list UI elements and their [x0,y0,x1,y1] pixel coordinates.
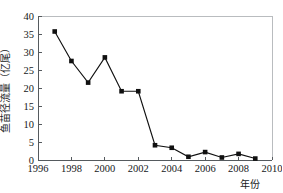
data-point-marker [236,152,241,157]
data-point-marker [169,145,174,150]
data-point-marker [86,80,91,85]
plot-axes [38,16,272,160]
data-series [52,29,257,161]
data-point-marker [203,150,208,155]
data-point-marker [136,89,141,94]
series-line-path [55,31,256,158]
y-tick-label: 15 [24,101,35,112]
y-tick-label: 35 [24,29,35,40]
x-tick-label: 2004 [161,163,183,174]
x-tick-label: 2000 [94,163,115,174]
y-tick-label: 40 [24,11,35,22]
x-tick-label: 2008 [228,163,249,174]
y-axis-title: 鱼苗径流量（亿尾） [0,43,11,133]
x-tick-label: 1998 [61,163,82,174]
x-tick-label: 2006 [195,163,216,174]
data-point-marker [103,55,108,60]
x-tick-label: 1996 [28,163,49,174]
data-point-marker [69,59,74,64]
line-chart: 0510152025303540 19961998200020022004200… [0,0,282,193]
data-point-marker [153,143,158,148]
chart-container: 0510152025303540 19961998200020022004200… [0,0,282,193]
x-tick-label: 2010 [262,163,283,174]
y-axis-ticks: 0510152025303540 [24,11,42,166]
y-tick-label: 20 [24,83,35,94]
plot-border [38,16,272,160]
y-tick-label: 25 [24,65,35,76]
y-tick-label: 30 [24,47,35,58]
data-point-marker [253,156,258,161]
x-axis-ticks: 19961998200020022004200620082010 [28,157,283,175]
data-point-marker [52,29,57,34]
plot-frame [38,16,272,160]
data-point-marker [220,155,225,160]
y-tick-label: 5 [29,137,34,148]
y-tick-label: 10 [24,119,35,130]
data-point-marker [186,154,191,159]
x-axis-title: 年份 [240,178,260,190]
data-point-marker [119,89,124,94]
x-tick-label: 2002 [128,163,149,174]
